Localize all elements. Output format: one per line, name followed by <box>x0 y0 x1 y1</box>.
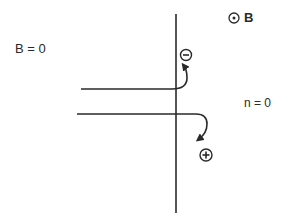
magnetic-field-label: B <box>244 11 253 24</box>
lower-particle-track <box>77 114 207 139</box>
upper-particle-track <box>81 66 187 89</box>
field-free-region-label: B = 0 <box>15 42 46 55</box>
negative-charge-icon <box>181 50 192 61</box>
zero-density-label: n = 0 <box>244 97 271 109</box>
positive-charge-icon <box>200 149 212 161</box>
field-out-of-page-icon <box>229 13 239 23</box>
deflection-diagram <box>0 0 288 224</box>
